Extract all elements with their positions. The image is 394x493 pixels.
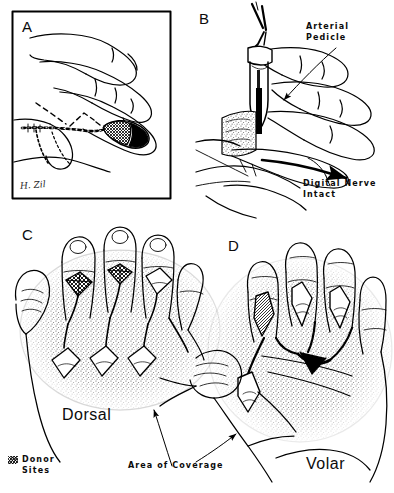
artist-signature: H. Zil: [20, 179, 46, 191]
illustration-artwork: [0, 0, 394, 493]
donor-sites-label-line1: Donor: [22, 455, 55, 466]
panel-a-artwork: [13, 12, 171, 199]
digital-nerve-label-line1: Digital Nerve: [303, 179, 377, 190]
donor-sites-label-line2: Sites: [22, 466, 50, 477]
area-of-coverage-leaders: [154, 410, 236, 466]
panel-letter-d: D: [228, 237, 239, 254]
area-of-coverage-label: Area of Coverage: [128, 461, 224, 472]
surgical-figure: A B C D H. Zil Arterial Pedicle Digital …: [0, 0, 394, 493]
panel-c-artwork: [15, 227, 220, 462]
volar-label: Volar: [306, 455, 345, 473]
arterial-pedicle-label-line1: Arterial: [306, 22, 349, 33]
digital-nerve-label-line2: Intact: [303, 190, 336, 201]
panel-letter-a: A: [22, 18, 32, 35]
arterial-pedicle-label-line2: Pedicle: [306, 33, 346, 44]
panel-letter-b: B: [199, 10, 209, 27]
panel-letter-c: C: [22, 226, 33, 243]
donor-sites-swatch-icon: [8, 456, 18, 464]
dorsal-label: Dorsal: [62, 406, 111, 424]
